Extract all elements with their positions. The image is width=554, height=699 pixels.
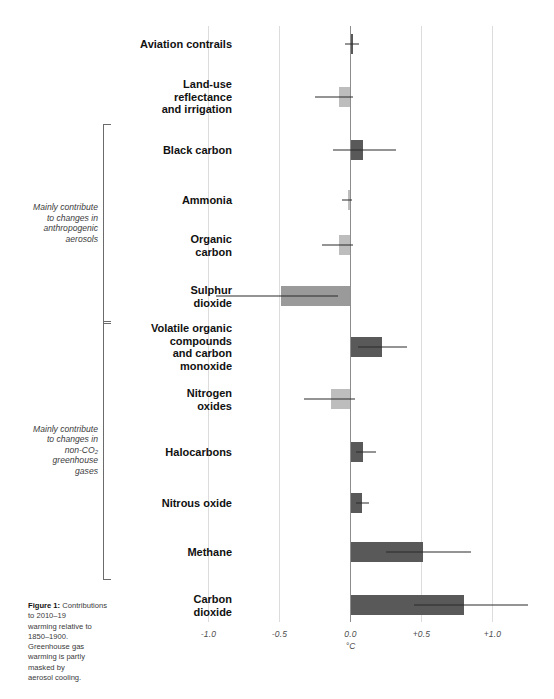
category-label: Aviation contrails <box>32 38 232 51</box>
error-bar <box>345 44 359 45</box>
axis-zero-line <box>350 26 351 622</box>
axis-tick-label: +1.0 <box>484 629 502 639</box>
error-bar <box>342 200 352 201</box>
figure-caption: Figure 1: Contributions to 2010–19 warmi… <box>28 601 124 683</box>
gridline-+1.0 <box>492 26 493 622</box>
category-label: Volatile organic compounds and carbon mo… <box>32 322 232 372</box>
chart-plot-area: -1.0-0.50.0+0.5+1.0°CAviation contrailsL… <box>0 0 554 699</box>
gridline-+0.5 <box>421 26 422 622</box>
error-bar <box>386 552 471 553</box>
category-label: Methane <box>32 546 232 559</box>
axis-tick-label: -0.5 <box>272 629 287 639</box>
error-bar <box>356 503 369 504</box>
error-bar <box>322 245 353 246</box>
error-bar <box>358 347 408 348</box>
group-bracket-aerosols <box>103 124 111 324</box>
error-bar <box>216 296 338 297</box>
caption-title: Figure 1: <box>28 601 60 610</box>
error-bar <box>304 399 355 400</box>
figure-container: -1.0-0.50.0+0.5+1.0°CAviation contrailsL… <box>0 0 554 699</box>
gridline--0.5 <box>279 26 280 622</box>
axis-unit-label: °C <box>346 641 356 651</box>
axis-tick-label: 0.0 <box>344 629 356 639</box>
group-label-aerosols: Mainly contribute to changes in anthropo… <box>12 202 98 244</box>
group-bracket-non-co2-ghg <box>103 321 111 580</box>
category-label: Black carbon <box>32 144 232 157</box>
axis-tick-label: +0.5 <box>413 629 431 639</box>
error-bar <box>414 605 528 606</box>
category-label: Nitrous oxide <box>32 497 232 510</box>
error-bar <box>333 150 395 151</box>
error-bar <box>315 97 353 98</box>
group-label-non-co2-ghg: Mainly contribute to changes in non-CO₂ … <box>12 423 98 476</box>
caption-body: Contributions to 2010–19 warming relativ… <box>28 601 107 682</box>
category-label: Nitrogen oxides <box>32 387 232 412</box>
category-label: Sulphur dioxide <box>32 284 232 309</box>
category-label: Land-use reflectance and irrigation <box>32 78 232 116</box>
axis-tick-label: -1.0 <box>201 629 216 639</box>
error-bar <box>356 452 376 453</box>
